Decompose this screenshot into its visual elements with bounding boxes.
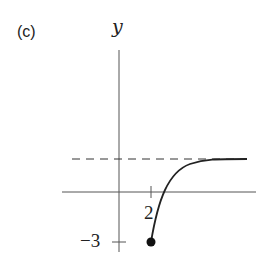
plot-area [0,0,266,253]
start-point-marker [147,238,156,247]
function-curve [151,159,247,242]
